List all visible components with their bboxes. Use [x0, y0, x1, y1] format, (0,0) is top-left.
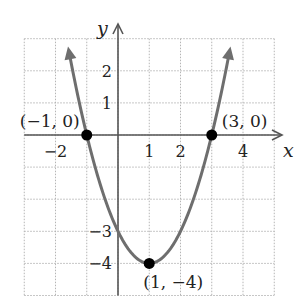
point-marker [206, 130, 217, 141]
parabola-chart: (−1, 0)(3, 0)(1, −4) −212421−3−4 x y [0, 0, 304, 308]
grid-lines [24, 39, 274, 296]
y-tick-label: −4 [88, 254, 112, 273]
x-axis-label: x [283, 139, 294, 161]
y-axis-label: y [96, 17, 108, 39]
y-tick-label: 1 [102, 94, 112, 113]
curve-left-arrow-icon [65, 46, 77, 60]
x-tick-label: 4 [238, 142, 248, 161]
x-tick-label: 1 [144, 142, 154, 161]
point-label: (−1, 0) [20, 111, 80, 131]
curve-right-arrow-icon [222, 46, 234, 60]
point-marker [144, 258, 155, 269]
x-tick-label: −2 [44, 142, 68, 161]
labeled-points: (−1, 0)(3, 0)(1, −4) [20, 111, 268, 292]
point-label: (1, −4) [143, 272, 203, 292]
point-label: (3, 0) [222, 111, 268, 131]
y-tick-label: −3 [88, 222, 112, 241]
point-marker [81, 130, 92, 141]
y-tick-label: 2 [102, 62, 112, 81]
x-tick-label: 2 [175, 142, 185, 161]
